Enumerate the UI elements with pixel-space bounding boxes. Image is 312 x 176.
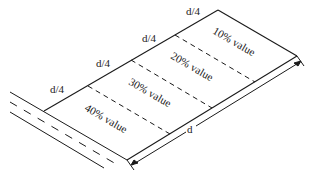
segment-label-2: d/4 bbox=[142, 32, 157, 44]
zone-label-30: 30% value bbox=[127, 75, 174, 109]
dimension-line-lower bbox=[132, 132, 186, 165]
dimension-label: d bbox=[187, 123, 193, 135]
parcel-outline bbox=[44, 10, 297, 160]
diagram-canvas: d d/4 d/4 d/4 d/4 10% value 20% value 30… bbox=[0, 0, 312, 176]
dimension-d bbox=[127, 56, 304, 170]
segment-label-3: d/4 bbox=[96, 57, 111, 69]
road-edge-lower bbox=[10, 112, 104, 168]
segment-label-1: d/4 bbox=[186, 5, 201, 17]
road bbox=[10, 92, 127, 168]
segment-label-4: d/4 bbox=[50, 83, 65, 95]
arrowhead-bottom-icon bbox=[131, 160, 138, 165]
strip-division-diagram: d d/4 d/4 d/4 d/4 10% value 20% value 30… bbox=[0, 0, 312, 176]
